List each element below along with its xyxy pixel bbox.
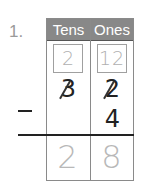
answer-tens-digit[interactable]: 2 [46, 138, 89, 176]
minuend-tens-digit: 3 [47, 75, 90, 103]
regroup-box-ones[interactable]: 12 [97, 44, 127, 73]
header-ones: Ones [91, 19, 133, 40]
problem-number: 1. [9, 22, 23, 42]
answer-line [18, 134, 134, 136]
subtrahend-ones-digit: 4 [91, 105, 134, 133]
minuend-ones-digit: 2 [91, 75, 134, 103]
answer-ones-digit[interactable]: 8 [90, 138, 133, 176]
header-tens: Tens [47, 19, 90, 40]
minus-sign-icon [18, 110, 32, 112]
regroup-box-tens[interactable]: 2 [53, 44, 83, 73]
